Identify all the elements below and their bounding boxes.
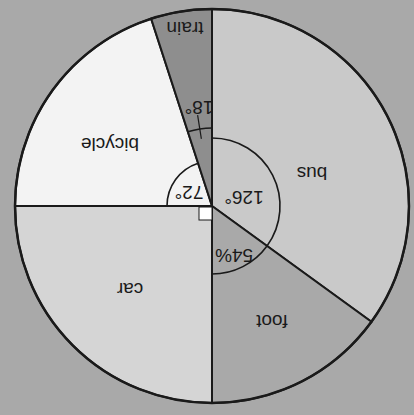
angle-label-train: 18° <box>185 97 214 118</box>
angle-label-bicycle: 72° <box>175 182 204 203</box>
pie-slices <box>15 9 409 403</box>
angle-label-foot: 54% <box>215 245 253 266</box>
right-angle-marker <box>199 207 212 220</box>
label-bus: bus <box>297 163 328 184</box>
angle-label-bus: 126° <box>224 187 263 208</box>
label-foot: foot <box>255 311 287 332</box>
label-car: car <box>116 279 143 300</box>
pie-chart: train bicycle bus car foot 18° 72° 126° … <box>0 0 414 415</box>
label-bicycle: bicycle <box>81 134 139 155</box>
label-train: train <box>167 18 204 39</box>
